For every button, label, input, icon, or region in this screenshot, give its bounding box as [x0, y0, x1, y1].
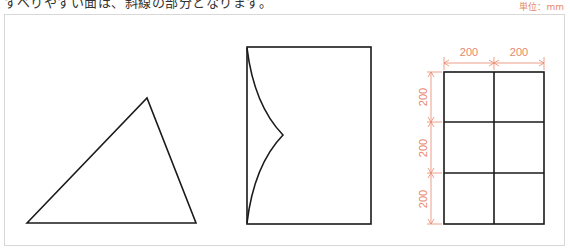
diagram-canvas: 200 200 200 200 200 — [0, 0, 570, 249]
dim-label-h2: 200 — [510, 46, 528, 58]
dim-label-v3: 200 — [417, 190, 429, 208]
triangle-figure — [27, 98, 196, 223]
dim-label-v2: 200 — [417, 139, 429, 157]
grid-figure — [444, 72, 544, 224]
dim-label-h1: 200 — [460, 46, 478, 58]
rectangle-cusp-figure — [247, 47, 371, 224]
dim-label-v1: 200 — [417, 88, 429, 106]
